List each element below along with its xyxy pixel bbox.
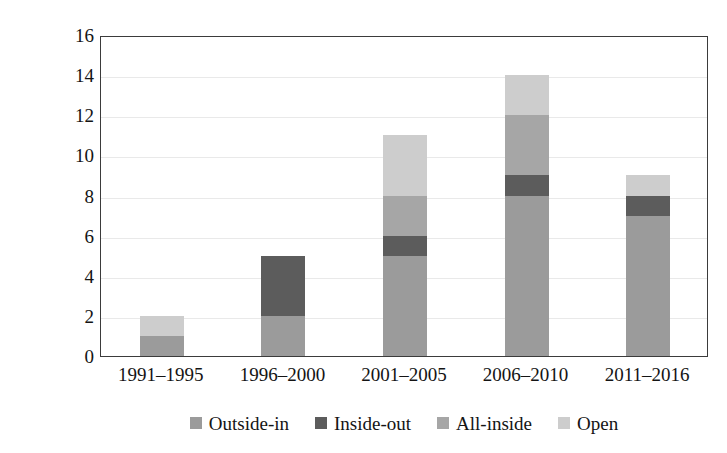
legend-label: Open [577,414,618,433]
y-axis-tick-label: 10 [36,146,94,165]
bar-group[interactable] [140,35,184,356]
bar-segment-inside-out[interactable] [505,175,549,195]
y-axis-tick-label: 6 [36,227,94,246]
y-axis-tick-label: 8 [36,187,94,206]
legend-swatch-icon [558,417,570,429]
y-axis-tick-label: 12 [36,106,94,125]
legend-swatch-icon [437,417,449,429]
legend-item[interactable]: Open [558,414,618,433]
legend-item[interactable]: All-inside [437,414,532,433]
legend-label: Inside-out [334,414,411,433]
legend-label: Outside-in [209,414,289,433]
bar-segment-inside-out[interactable] [626,196,670,216]
bar-group[interactable] [505,35,549,356]
bar-segment-open[interactable] [383,135,427,195]
y-axis-tick-label: 2 [36,307,94,326]
x-axis-tick-label: 1996–2000 [222,362,344,388]
bar-group[interactable] [626,35,670,356]
y-axis-tick-label: 0 [36,347,94,366]
bars-layer [101,37,707,356]
bar-segment-all-inside[interactable] [383,196,427,236]
bar-segment-inside-out[interactable] [261,256,305,316]
bar-segment-open[interactable] [626,175,670,195]
x-axis-tick-labels: 1991–19951996–20002001–20052006–20102011… [100,362,708,392]
bar-segment-open[interactable] [505,75,549,115]
legend-item[interactable]: Outside-in [190,414,289,433]
bar-segment-outside-in[interactable] [383,256,427,356]
legend-label: All-inside [456,414,532,433]
legend-swatch-icon [315,417,327,429]
chart-legend: Outside-inInside-outAll-insideOpen [100,408,708,438]
bar-segment-open[interactable] [140,316,184,336]
y-axis-tick-label: 14 [36,66,94,85]
legend-item[interactable]: Inside-out [315,414,411,433]
legend-swatch-icon [190,417,202,429]
bar-segment-inside-out[interactable] [383,236,427,256]
bar-segment-outside-in[interactable] [626,216,670,356]
x-axis-tick-label: 2006–2010 [465,362,587,388]
bar-group[interactable] [261,35,305,356]
bar-segment-outside-in[interactable] [261,316,305,356]
x-axis-tick-label: 2001–2005 [343,362,465,388]
x-axis-tick-label: 1991–1995 [100,362,222,388]
bar-segment-outside-in[interactable] [505,196,549,357]
bar-segment-all-inside[interactable] [505,115,549,175]
bar-segment-outside-in[interactable] [140,336,184,356]
y-axis-tick-label: 4 [36,267,94,286]
bar-group[interactable] [383,35,427,356]
x-axis-tick-label: 2011–2016 [586,362,708,388]
y-axis-tick-label: 16 [36,26,94,45]
y-axis-tick-labels: 0246810121416 [28,36,94,357]
plot-area [100,36,708,357]
chart-figure: Number of papers 0246810121416 1991–1995… [0,0,727,453]
